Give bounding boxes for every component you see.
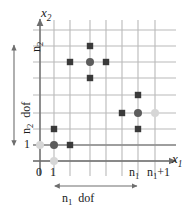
corner-stencil-neighbor-node	[67, 142, 73, 148]
x-axis-label: x1	[172, 152, 182, 169]
y-axis-label: x2	[41, 6, 51, 23]
horizontal-dimension-label: n1 dof	[62, 192, 94, 207]
interior-stencil-neighbor-node	[87, 75, 93, 81]
corner-stencil-neighbor-node	[51, 126, 57, 132]
interior-stencil-neighbor-node	[87, 43, 93, 49]
corner-stencil-center-node	[50, 141, 58, 149]
right-edge-stencil-center-node	[134, 109, 142, 117]
right-edge-stencil-neighbor-node	[119, 110, 125, 116]
x-tick-n1: n1	[129, 166, 139, 181]
corner-stencil-ghost-node	[50, 157, 58, 165]
right-edge-stencil-neighbor-node	[135, 92, 141, 98]
grid-lines	[33, 20, 176, 176]
right-edge-stencil-neighbor-node	[135, 126, 141, 132]
x-tick-1: 1	[50, 166, 56, 178]
y-tick-n2: n2	[30, 42, 45, 52]
x-tick-0: 0	[36, 166, 42, 178]
x-tick-n1-plus-1: n1+1	[147, 166, 170, 181]
interior-stencil-neighbor-node	[67, 59, 73, 65]
interior-stencil-neighbor-node	[103, 59, 109, 65]
interior-stencil-center-node	[86, 58, 94, 66]
vertical-dimension-label: n2 dof	[20, 102, 35, 134]
y-tick-1: 1	[24, 138, 30, 150]
grid-stencil-figure: x2 x1 0 1 n1 n1+1 1 n2 n1 dof n2 dof	[0, 0, 191, 213]
corner-stencil-ghost-node	[36, 141, 44, 149]
right-edge-stencil-ghost-node	[151, 109, 159, 117]
